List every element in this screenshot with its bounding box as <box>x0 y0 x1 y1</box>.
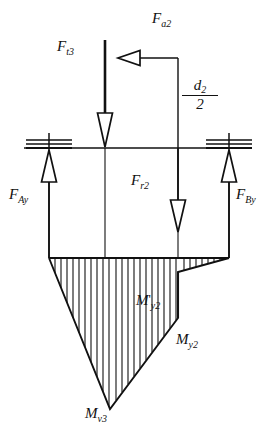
label-my2: My2 <box>176 331 198 347</box>
label-fa2: Fa2 <box>152 10 171 26</box>
fay-arrowhead-icon <box>42 150 57 182</box>
label-ft3: Ft3 <box>57 38 74 54</box>
label-fr2: Fr2 <box>131 172 149 188</box>
fa2-arrowhead-icon <box>118 51 140 66</box>
label-my2-prime: M'y2 <box>136 292 160 308</box>
fby-arrowhead-icon <box>222 150 237 182</box>
label-mv3: Mv3 <box>85 405 107 421</box>
shaft-moment-diagram: Ft3 Fa2 d2 2 FAy Fr2 FBy M'y2 My2 Mv3 <box>0 0 274 428</box>
diagram-canvas <box>0 0 274 428</box>
ft3-arrowhead-icon <box>98 113 113 147</box>
fr2-arrowhead-icon <box>171 200 186 232</box>
moment-curve-outline <box>49 258 229 409</box>
label-d2-over-2: d2 2 <box>182 78 218 113</box>
label-fby: FBy <box>236 186 256 202</box>
label-fay: FAy <box>9 186 28 202</box>
